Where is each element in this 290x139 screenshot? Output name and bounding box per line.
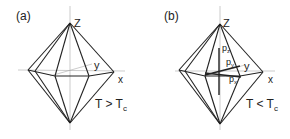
- x-axis-label: x: [118, 74, 123, 85]
- condition-label: T > Tc: [95, 97, 127, 113]
- y-axis-label: y: [244, 60, 250, 72]
- panel-a: (a) Z y x T > Tc: [16, 6, 127, 130]
- y-axis-label: y: [94, 59, 100, 71]
- condition-label: T < Tc: [246, 97, 278, 113]
- pz-label: pz: [222, 43, 230, 54]
- panel-b: (b) Z y x pz py px T < Tc: [164, 6, 278, 130]
- z-axis-label: Z: [223, 17, 230, 29]
- octahedra-diagram: (a) Z y x T > Tc (b) Z y x pz: [0, 0, 290, 139]
- panel-a-label: (a): [16, 9, 31, 23]
- z-axis-label: Z: [74, 17, 81, 29]
- x-axis-label: x: [268, 74, 273, 85]
- panel-b-label: (b): [164, 9, 179, 23]
